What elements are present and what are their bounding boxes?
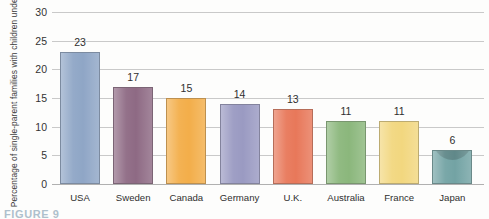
bar-value-label: 17 [113, 71, 153, 83]
y-axis-title-text: Percentage of single-parent families wit… [9, 0, 20, 207]
bar[interactable] [166, 98, 206, 184]
bar-value-label: 11 [326, 105, 366, 117]
bar[interactable] [326, 121, 366, 184]
chart-container: Percentage of single-parent families wit… [0, 0, 489, 219]
bar-sheen [433, 151, 471, 183]
bar-value-label: 23 [60, 36, 100, 48]
x-axis-category-label: USA [53, 192, 107, 203]
bar-sheen [327, 122, 365, 183]
bar-group: 6Japan [432, 12, 472, 184]
x-axis-category-label: Australia [319, 192, 373, 203]
y-axis-tick-label: 20 [35, 63, 47, 75]
y-axis-tick-label: 15 [35, 92, 47, 104]
x-axis-category-label: France [372, 192, 426, 203]
x-axis-category-label: U.K. [266, 192, 320, 203]
bar-sheen [380, 122, 418, 183]
bar[interactable] [379, 121, 419, 184]
bar-value-label: 6 [432, 134, 472, 146]
x-axis-category-label: Japan [425, 192, 479, 203]
bar-sheen [274, 110, 312, 183]
plot-area: 051015202530 23USA17Sweden15Canada14Germ… [52, 12, 484, 184]
x-axis-category-label: Canada [159, 192, 213, 203]
bar-group: 13U.K. [273, 12, 313, 184]
bar[interactable] [60, 52, 100, 184]
bar-sheen [114, 88, 152, 183]
bar[interactable] [273, 109, 313, 184]
bar[interactable] [432, 150, 472, 184]
y-axis-title: Percentage of single-parent families wit… [0, 0, 28, 190]
bar-value-label: 13 [273, 93, 313, 105]
bar-sheen [167, 99, 205, 183]
bar[interactable] [220, 104, 260, 184]
x-axis-category-label: Germany [213, 192, 267, 203]
y-axis-tick-label: 0 [41, 178, 47, 190]
bar-group: 11Australia [326, 12, 366, 184]
bar-value-label: 15 [166, 82, 206, 94]
figure-caption: FIGURE 9 [4, 208, 60, 219]
bar-group: 17Sweden [113, 12, 153, 184]
bar-value-label: 14 [220, 88, 260, 100]
bar-group: 23USA [60, 12, 100, 184]
y-axis-tick-label: 10 [35, 121, 47, 133]
y-axis-tick-label: 30 [35, 6, 47, 18]
bar[interactable] [113, 87, 153, 184]
bar-value-label: 11 [379, 105, 419, 117]
x-axis-category-label: Sweden [106, 192, 160, 203]
bar-group: 11France [379, 12, 419, 184]
bar-group: 14Germany [220, 12, 260, 184]
y-axis-tick-label: 5 [41, 149, 47, 161]
y-axis-tick-label: 25 [35, 35, 47, 47]
bar-sheen [61, 53, 99, 183]
bar-group: 15Canada [166, 12, 206, 184]
bar-sheen [221, 105, 259, 183]
bar-series: 23USA17Sweden15Canada14Germany13U.K.11Au… [52, 12, 484, 184]
gridline-0 [52, 184, 484, 185]
